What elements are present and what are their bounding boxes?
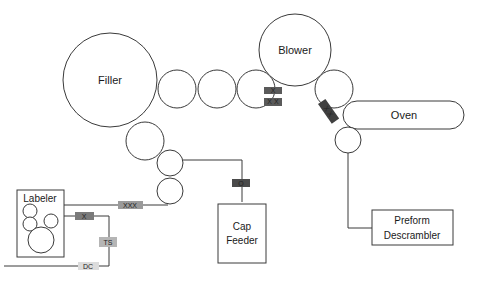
cap-feeder-label-line2: Feeder bbox=[226, 235, 258, 246]
oven-label: Oven bbox=[391, 109, 417, 121]
discharge-wheel-2[interactable] bbox=[157, 150, 183, 176]
tag-labeler-x[interactable]: X bbox=[75, 212, 94, 220]
svg-text:TS: TS bbox=[104, 239, 113, 246]
svg-text:DC: DC bbox=[83, 263, 93, 270]
preform-connector bbox=[348, 153, 372, 228]
svg-text:X: X bbox=[271, 87, 276, 94]
starwheel-2[interactable] bbox=[198, 70, 236, 108]
svg-text:X X: X X bbox=[267, 98, 279, 105]
svg-text:O: O bbox=[238, 180, 244, 187]
preform-starwheel[interactable] bbox=[335, 127, 361, 153]
bottling-line-diagram: Filler Blower Oven Preform Descrambler C… bbox=[0, 0, 479, 283]
filler-label: Filler bbox=[98, 74, 122, 86]
preform-label-line2: Descrambler bbox=[384, 230, 441, 241]
svg-text:X: X bbox=[82, 213, 87, 220]
cap-feeder-machine[interactable] bbox=[218, 204, 266, 263]
tag-ts[interactable]: TS bbox=[99, 237, 117, 247]
tag-blower-x[interactable]: X bbox=[264, 87, 282, 94]
labeler-turret[interactable] bbox=[28, 227, 54, 253]
preform-label-line1: Preform bbox=[394, 215, 430, 226]
labeler-wheel-3[interactable] bbox=[44, 214, 58, 228]
tag-blower-xx[interactable]: X X bbox=[264, 98, 282, 106]
tag-filler-labeler-xxx[interactable]: XXX bbox=[118, 201, 143, 209]
discharge-wheel-3[interactable] bbox=[157, 178, 183, 204]
tag-cap-feeder-o[interactable]: O bbox=[232, 179, 250, 187]
svg-text:XXX: XXX bbox=[123, 202, 137, 209]
labeler-label: Labeler bbox=[23, 193, 57, 204]
tag-dc[interactable]: DC bbox=[78, 262, 99, 270]
discharge-wheel-1[interactable] bbox=[126, 122, 164, 160]
cap-feeder-label-line1: Cap bbox=[233, 221, 252, 232]
labeler-wheel-1[interactable] bbox=[23, 204, 37, 218]
starwheel-1[interactable] bbox=[158, 70, 196, 108]
blower-label: Blower bbox=[278, 44, 312, 56]
